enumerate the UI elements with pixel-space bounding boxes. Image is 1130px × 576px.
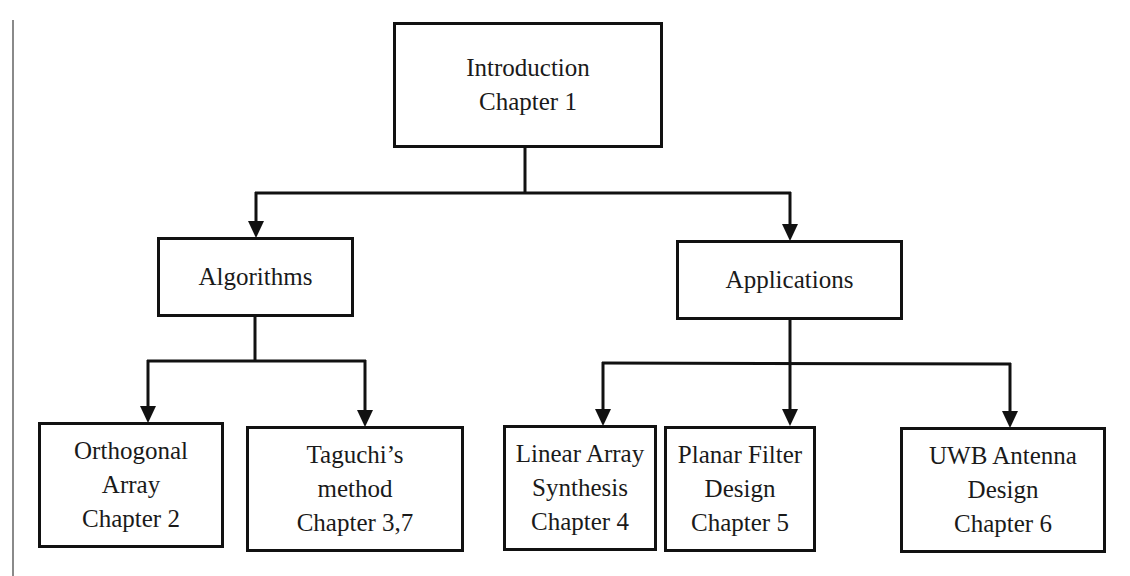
node-label: Orthogonal — [74, 434, 188, 468]
arrow-down-icon — [357, 410, 373, 427]
node-label: Design — [705, 472, 776, 506]
node-label: Array — [102, 468, 160, 502]
arrow-down-icon — [248, 221, 264, 238]
node-label: Chapter 4 — [531, 505, 629, 539]
node-label: Taguchi’s — [307, 438, 404, 472]
node-label: Synthesis — [532, 471, 628, 505]
node-label: Applications — [726, 263, 854, 297]
node-label: Chapter 2 — [82, 502, 180, 536]
node-label: Chapter 1 — [479, 85, 577, 119]
node-label: UWB Antenna — [929, 439, 1077, 473]
node-label: Chapter 6 — [954, 507, 1052, 541]
node-uwb-antenna-design: UWB Antenna Design Chapter 6 — [900, 427, 1106, 553]
node-applications: Applications — [676, 240, 903, 320]
arrow-down-icon — [140, 406, 156, 423]
node-label: Introduction — [466, 51, 590, 85]
node-linear-array-synthesis: Linear Array Synthesis Chapter 4 — [503, 425, 657, 551]
node-label: Chapter 5 — [691, 506, 789, 540]
node-label: Design — [968, 473, 1039, 507]
node-taguchi-method: Taguchi’s method Chapter 3,7 — [246, 426, 464, 552]
node-algorithms: Algorithms — [157, 237, 354, 317]
arrow-down-icon — [782, 224, 798, 241]
connector-applications-bar — [602, 363, 1011, 364]
node-label: Linear Array — [516, 437, 644, 471]
node-planar-filter-design: Planar Filter Design Chapter 5 — [664, 426, 816, 552]
node-label: method — [318, 472, 393, 506]
arrow-down-icon — [595, 409, 611, 426]
arrow-down-icon — [1002, 411, 1018, 428]
node-orthogonal-array: Orthogonal Array Chapter 2 — [38, 422, 224, 548]
arrow-down-icon — [782, 409, 798, 426]
node-introduction: Introduction Chapter 1 — [393, 22, 663, 148]
node-label: Algorithms — [199, 260, 313, 294]
node-label: Planar Filter — [678, 438, 802, 472]
node-label: Chapter 3,7 — [297, 506, 414, 540]
